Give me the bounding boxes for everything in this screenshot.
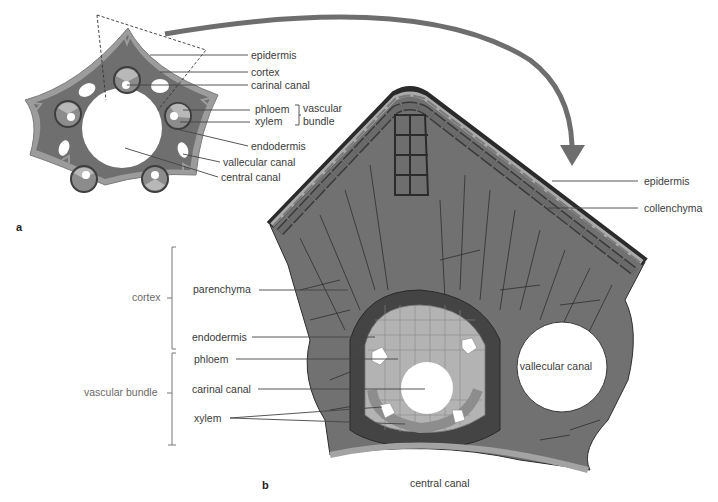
panel-b-label-epidermis: epidermis bbox=[644, 175, 690, 187]
panel-a-label-bundle: bundle bbox=[303, 115, 335, 127]
panel-b-label-carinal-canal: carinal canal bbox=[192, 383, 251, 395]
cortex-bracket bbox=[172, 247, 176, 349]
panel-b-carinal-canal bbox=[401, 362, 453, 414]
panel-b-label-endodermis: endodermis bbox=[192, 331, 247, 343]
panel-a-label-vallecular-canal: vallecular canal bbox=[223, 156, 295, 168]
panel-b-label-phloem: phloem bbox=[194, 353, 229, 365]
panel-a-label-epidermis: epidermis bbox=[251, 49, 297, 61]
panel-a-label-endodermis: endodermis bbox=[251, 140, 306, 152]
panel-b-label-vallecular-canal: vallecular canal bbox=[520, 360, 592, 372]
panel-a-label-cortex: cortex bbox=[251, 66, 280, 78]
group-label-cortex: cortex bbox=[132, 291, 161, 303]
stem-anatomy-figure: epidermis cortex carinal canal phloem xy… bbox=[0, 0, 718, 502]
arrowhead-icon bbox=[560, 145, 585, 166]
panel-a-label-carinal-canal: carinal canal bbox=[251, 79, 310, 91]
panel-a-label-xylem: xylem bbox=[255, 115, 283, 127]
panel-a-letter: a bbox=[16, 221, 23, 233]
panel-a-label-vascular: vascular bbox=[303, 102, 343, 114]
group-label-vascular-bundle: vascular bundle bbox=[84, 386, 158, 398]
panel-b-letter: b bbox=[262, 479, 269, 491]
vascular-bundle-bracket bbox=[168, 353, 176, 445]
panel-b-label-central-canal: central canal bbox=[410, 477, 470, 489]
panel-a-label-phloem: phloem bbox=[255, 103, 290, 115]
panel-b-label-xylem: xylem bbox=[194, 412, 222, 424]
panel-b-label-parenchyma: parenchyma bbox=[193, 283, 251, 295]
panel-b-label-collenchyma: collenchyma bbox=[644, 202, 703, 214]
panel-a-label-central-canal: central canal bbox=[221, 171, 281, 183]
